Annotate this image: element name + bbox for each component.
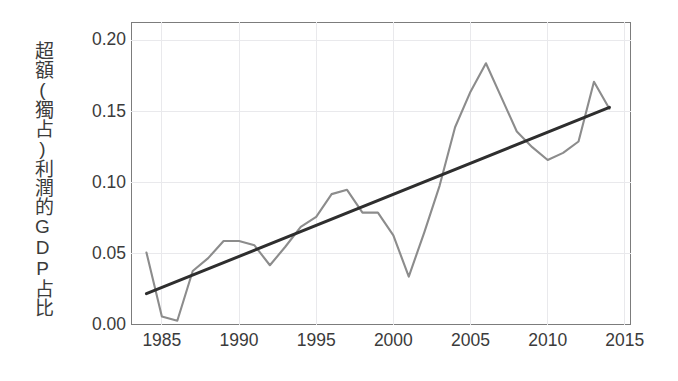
x-tick-label: 1990 (220, 332, 259, 350)
vertical-gridlines (162, 22, 625, 325)
x-tick-label: 1995 (297, 332, 336, 350)
x-tick-label: 2000 (374, 332, 413, 350)
data-series-line (146, 63, 609, 320)
chart-container: 超額(獨占)利潤的GDP占比 0.000.050.100.150.20 1985… (0, 0, 678, 381)
trendline (146, 107, 609, 293)
plot-area (131, 22, 631, 325)
x-tick-label: 2015 (605, 332, 644, 350)
x-tick-label: 2005 (451, 332, 490, 350)
x-tick-label: 1985 (142, 332, 181, 350)
x-tick-label: 2010 (528, 332, 567, 350)
horizontal-gridlines (131, 40, 631, 253)
